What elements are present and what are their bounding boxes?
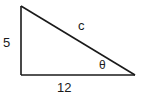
bottom-side-label: 12 (57, 81, 71, 94)
hypotenuse-label: c (78, 19, 85, 32)
angle-theta-label: θ (99, 59, 106, 72)
hypotenuse-line (21, 6, 135, 75)
left-side-label: 5 (3, 36, 10, 49)
